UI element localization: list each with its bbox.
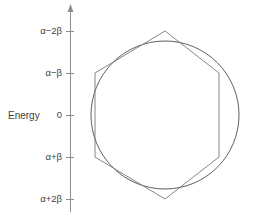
energy-axis-arrowhead (68, 4, 74, 12)
tick-label-alpha-plus-2beta: α+2β (8, 194, 62, 204)
tick-label-alpha-minus-2beta: α−2β (8, 26, 62, 36)
tick-label-alpha-minus-beta: α−β (8, 68, 62, 78)
tick-label-zero: 0 (8, 110, 62, 120)
benzene-hexagon (95, 31, 219, 199)
frost-circle (91, 41, 239, 189)
frost-circle-diagram: Energy α−2β α−β 0 α+β α+2β (0, 0, 265, 218)
tick-label-alpha-plus-beta: α+β (8, 152, 62, 162)
